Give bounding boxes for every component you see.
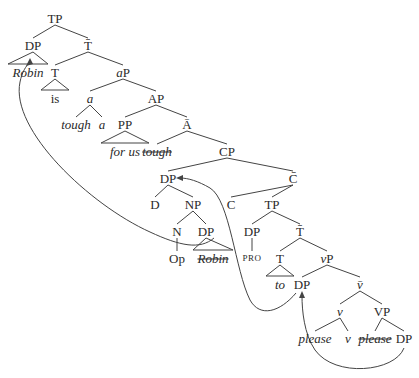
tree-edge	[168, 185, 193, 197]
tree-node-dp-spec-v: DP	[294, 278, 311, 291]
tree-edge	[177, 211, 193, 224]
tree-node-t-to: T	[276, 252, 284, 265]
tree-edge	[88, 52, 123, 65]
tree-node-Op: Op	[169, 252, 185, 265]
tree-node-vP: vP	[320, 252, 333, 265]
tree-edge	[302, 265, 327, 277]
triangle-icon	[41, 79, 69, 90]
tree-edge	[168, 158, 227, 171]
tree-node-VP: VP	[374, 305, 391, 318]
constituent-triangles	[8, 52, 294, 276]
tree-node-is: is	[51, 92, 60, 105]
tree-edge	[382, 318, 404, 331]
tree-edge	[272, 211, 300, 224]
tree-node-D: D	[150, 198, 159, 211]
triangle-icon	[266, 265, 294, 276]
tree-node-tbar: T̄	[84, 39, 92, 52]
tree-node-dp-obj: DP	[396, 332, 413, 345]
tree-edge	[125, 105, 156, 117]
tree-edge	[157, 131, 187, 144]
tree-branches	[0, 0, 419, 378]
tree-node-ap-small: aP	[116, 66, 130, 79]
tree-edge	[193, 211, 206, 224]
tree-node-v-leaf: v	[345, 332, 351, 345]
tree-edge	[340, 291, 360, 304]
tree-edge	[375, 318, 382, 331]
tree-node-dp-op: DP	[160, 172, 177, 185]
tree-node-t-is: T	[51, 66, 59, 79]
arrowhead-icon	[299, 291, 305, 298]
tree-node-dp-pro: DP	[244, 225, 261, 238]
tree-node-a-head: a	[87, 92, 94, 105]
tree-node-tp-emb: TP	[264, 198, 279, 211]
tree-edge	[156, 105, 187, 117]
tree-edge	[327, 265, 360, 277]
tree-edge	[123, 79, 156, 91]
tree-node-for-us: for us	[110, 145, 140, 158]
triangle-icon	[193, 238, 233, 250]
tree-edge	[55, 25, 88, 38]
tree-edge	[231, 185, 293, 197]
tree-edges	[33, 25, 404, 331]
tree-edge	[280, 238, 300, 251]
tree-edge	[55, 52, 88, 65]
tree-node-NP: NP	[185, 198, 202, 211]
tree-node-v-head: v	[337, 305, 343, 318]
tree-node-tough: tough	[61, 118, 91, 131]
arrowhead-icon	[176, 175, 183, 181]
tree-node-C: C	[227, 198, 236, 211]
tree-node-PRO: PRO	[242, 252, 261, 265]
tree-node-robin-copy: Robin	[197, 252, 228, 265]
tree-edge	[227, 158, 293, 171]
tree-node-to: to	[275, 278, 285, 291]
tree-edge	[300, 238, 327, 251]
tree-edge	[187, 131, 227, 144]
tree-node-please-copy: please	[358, 332, 391, 345]
tree-node-AP: AP	[148, 92, 165, 105]
tree-node-vbar: v̄	[357, 278, 363, 291]
tree-node-abar: Ā	[182, 118, 191, 131]
tree-edge	[155, 185, 168, 197]
tree-edge	[90, 105, 102, 117]
tree-node-a-leaf: a	[99, 118, 106, 131]
tree-edge	[360, 291, 382, 304]
tree-edge	[340, 318, 348, 331]
tree-node-robin: Robin	[12, 66, 43, 79]
tree-edge	[252, 211, 272, 224]
tree-node-CP: CP	[219, 145, 235, 158]
tree-node-cbar: C̄	[289, 172, 298, 185]
tree-edge	[90, 79, 123, 91]
tree-node-please: please	[298, 332, 331, 345]
tree-edge	[33, 25, 55, 38]
tree-node-dp-subj: DP	[25, 39, 42, 52]
tree-edge	[76, 105, 90, 117]
tree-edge	[315, 318, 340, 331]
tree-node-PP: PP	[118, 118, 132, 131]
tree-node-tough-copy: tough	[142, 145, 172, 158]
triangle-icon	[101, 131, 149, 143]
tree-node-tp-root: TP	[47, 12, 62, 25]
tree-node-N: N	[172, 225, 181, 238]
tree-node-dp-robin: DP	[198, 225, 215, 238]
movement-arrows	[19, 58, 404, 369]
tree-node-tbar-emb: T̄	[296, 225, 304, 238]
